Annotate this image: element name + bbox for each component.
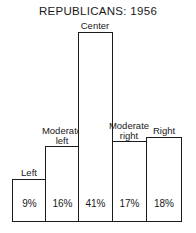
- value-center: 41%: [79, 198, 112, 209]
- value-right: 18%: [147, 198, 181, 209]
- value-moderate-right: 17%: [113, 198, 146, 209]
- chart-title: REPUBLICANS: 1956: [0, 5, 196, 17]
- label-right: Right: [139, 126, 189, 136]
- value-moderate-left: 16%: [46, 198, 79, 209]
- bar-left: 9%: [12, 179, 47, 222]
- value-left: 9%: [13, 198, 46, 209]
- bar-right: 18%: [146, 137, 182, 222]
- bar-moderate-right: 17%: [112, 141, 147, 222]
- bar-moderate-left: 16%: [45, 146, 80, 222]
- label-center: Center: [70, 21, 120, 31]
